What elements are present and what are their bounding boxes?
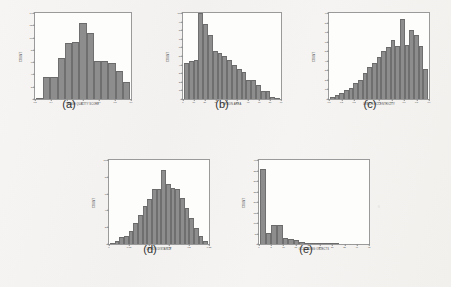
y-tick-mark — [33, 50, 35, 51]
x-tick-mark — [83, 99, 84, 101]
x-tick-mark — [341, 99, 342, 101]
y-tick-mark — [107, 210, 109, 211]
x-tick-mark — [270, 99, 271, 101]
panel-d-axes: COUNT LESION DISTANCE 02040608010000.050… — [108, 159, 210, 245]
x-tick-mark — [354, 99, 355, 101]
x-tick-mark — [189, 244, 190, 246]
y-tick-mark — [181, 47, 183, 48]
x-tick-mark — [99, 99, 100, 101]
histogram-bar — [43, 77, 50, 99]
y-tick-mark — [181, 64, 183, 65]
panel-e: COUNT OCCLUDING OBJECTS 0501001502002503… — [236, 155, 384, 265]
x-tick-mark — [51, 99, 52, 101]
x-tick-label: 0.5 — [377, 101, 380, 103]
panel-a-bars — [35, 13, 131, 99]
x-tick-label: 0.15 — [167, 246, 171, 248]
x-tick-label: 50 — [236, 101, 239, 103]
x-tick-label: 0.1 — [327, 101, 330, 103]
x-tick-mark — [205, 99, 206, 101]
histogram-bar — [58, 58, 65, 99]
panel-b-bars — [183, 13, 281, 99]
panel-d: COUNT LESION DISTANCE 02040608010000.050… — [86, 155, 226, 265]
histogram-bar — [123, 82, 130, 99]
y-tick-mark — [107, 160, 109, 161]
x-tick-mark — [281, 99, 282, 101]
panel-b-axes: COUNT LESION AREA 0102030405060708090100… — [182, 12, 282, 100]
x-tick-mark — [115, 99, 116, 101]
x-tick-mark — [391, 99, 392, 101]
y-tick-mark — [327, 89, 329, 90]
panel-a: COUNT IMAGE QUALITY SCORE 02040608010012… — [14, 8, 152, 118]
y-tick-mark — [33, 74, 35, 75]
y-tick-mark — [181, 39, 183, 40]
x-tick-label: 0.6 — [81, 101, 84, 103]
panel-e-bars — [259, 160, 369, 244]
y-tick-mark — [33, 13, 35, 14]
histogram-bar — [423, 69, 428, 99]
x-tick-label: 0.6 — [390, 101, 393, 103]
y-tick-mark — [181, 56, 183, 57]
y-tick-mark — [257, 202, 259, 203]
y-tick-mark — [181, 13, 183, 14]
figure-canvas: COUNT IMAGE QUALITY SCORE 02040608010012… — [0, 0, 451, 287]
y-tick-mark — [327, 70, 329, 71]
x-tick-mark — [248, 99, 249, 101]
x-tick-mark — [369, 244, 370, 246]
x-tick-mark — [357, 244, 358, 246]
x-tick-label: 0.7 — [97, 101, 100, 103]
y-tick-mark — [257, 212, 259, 213]
panel-c-caption: (c) — [364, 98, 377, 110]
y-tick-mark — [257, 223, 259, 224]
x-tick-mark — [320, 244, 321, 246]
x-tick-label: 90 — [280, 101, 283, 103]
x-tick-label: 40 — [355, 246, 358, 248]
y-tick-mark — [181, 90, 183, 91]
x-tick-mark — [332, 244, 333, 246]
y-tick-mark — [257, 233, 259, 234]
y-tick-mark — [327, 32, 329, 33]
x-tick-mark — [109, 244, 110, 246]
x-tick-label: 0.25 — [207, 246, 211, 248]
panel-b-caption: (b) — [215, 98, 228, 110]
y-tick-mark — [327, 51, 329, 52]
histogram-bar — [65, 43, 72, 100]
x-tick-mark — [259, 244, 260, 246]
x-tick-label: 15 — [294, 246, 297, 248]
histogram-bar — [36, 98, 43, 99]
x-tick-mark — [344, 244, 345, 246]
panel-e-axes: COUNT OCCLUDING OBJECTS 0501001502002503… — [258, 159, 370, 245]
x-tick-label: 0.2 — [187, 246, 190, 248]
y-tick-mark — [181, 82, 183, 83]
x-tick-label: 35 — [343, 246, 346, 248]
panel-d-caption: (d) — [143, 243, 156, 255]
x-tick-label: 25 — [319, 246, 322, 248]
x-tick-mark — [379, 99, 380, 101]
histogram-bar — [50, 77, 57, 99]
histogram-bar — [87, 33, 94, 99]
x-tick-mark — [131, 99, 132, 101]
x-tick-label: 0.7 — [402, 101, 405, 103]
x-tick-label: 0 — [108, 246, 109, 248]
x-tick-mark — [271, 244, 272, 246]
y-tick-mark — [33, 86, 35, 87]
y-tick-mark — [327, 80, 329, 81]
y-tick-mark — [327, 22, 329, 23]
panel-e-ylabel: COUNT — [244, 198, 247, 208]
x-tick-label: 10 — [282, 246, 285, 248]
x-tick-label: 70 — [258, 101, 261, 103]
x-tick-mark — [35, 99, 36, 101]
panel-a-ylabel: COUNT — [21, 52, 24, 62]
x-tick-mark — [169, 244, 170, 246]
y-tick-mark — [33, 62, 35, 63]
y-tick-mark — [327, 13, 329, 14]
x-tick-mark — [404, 99, 405, 101]
panel-a-axes: COUNT IMAGE QUALITY SCORE 02040608010012… — [34, 12, 132, 100]
x-tick-mark — [183, 99, 184, 101]
x-tick-label: 60 — [247, 101, 250, 103]
x-tick-label: 80 — [269, 101, 272, 103]
panel-a-caption: (a) — [62, 98, 75, 110]
panel-c: COUNT LESION ECCENTRICITY 01020304050607… — [306, 8, 446, 118]
y-tick-mark — [107, 227, 109, 228]
y-tick-mark — [257, 170, 259, 171]
y-tick-mark — [107, 193, 109, 194]
